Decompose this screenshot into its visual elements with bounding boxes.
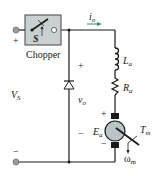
output-voltage-plus: + bbox=[78, 60, 84, 71]
inductor-label: La bbox=[122, 55, 133, 68]
circuit-diagram: S Chopper + − VS + vo − io La Ra + − Ea … bbox=[0, 0, 159, 176]
junction-dot bbox=[68, 161, 71, 164]
junction-dot bbox=[68, 29, 71, 32]
resistor-label: Ra bbox=[122, 82, 133, 95]
motor-plus: + bbox=[101, 108, 107, 119]
chopper-block: S bbox=[25, 15, 61, 45]
resistor-icon bbox=[112, 78, 118, 95]
source-plus: + bbox=[13, 35, 19, 46]
torque-label: Tm bbox=[140, 124, 151, 137]
switch-terminal-icon bbox=[51, 27, 56, 32]
motor-minus: − bbox=[101, 138, 107, 149]
chopper-label: Chopper bbox=[26, 49, 61, 60]
back-emf-label: Ea bbox=[92, 126, 103, 139]
freewheeling-diode-icon bbox=[64, 81, 74, 89]
dc-motor-icon bbox=[105, 113, 139, 154]
negative-terminal-icon bbox=[13, 159, 19, 165]
switch-label: S bbox=[33, 33, 39, 44]
output-voltage-label: vo bbox=[78, 94, 86, 107]
output-current-label: io bbox=[89, 11, 96, 24]
output-voltage-minus: − bbox=[78, 128, 84, 139]
positive-terminal-icon bbox=[13, 27, 19, 33]
source-voltage-label: VS bbox=[11, 89, 21, 102]
speed-label: ωm bbox=[124, 153, 137, 166]
source-minus: − bbox=[13, 146, 19, 157]
inductor-icon bbox=[115, 48, 119, 70]
